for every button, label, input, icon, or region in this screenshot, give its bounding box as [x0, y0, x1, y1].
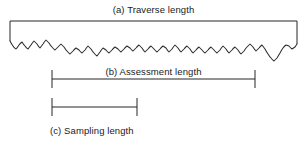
traverse-length-label: (a) Traverse length — [0, 5, 307, 15]
roughness-profile-path — [10, 40, 297, 61]
traverse-length-bracket — [10, 21, 297, 44]
roughness-profile-group — [10, 40, 297, 61]
assessment-length-label: (b) Assessment length — [52, 67, 255, 77]
sampling-length-bracket — [52, 98, 137, 116]
traverse-bracket-path — [10, 21, 297, 44]
sampling-length-label: (c) Sampling length — [50, 126, 134, 136]
roughness-diagram: (a) Traverse length (b) Assessment lengt… — [0, 0, 307, 147]
